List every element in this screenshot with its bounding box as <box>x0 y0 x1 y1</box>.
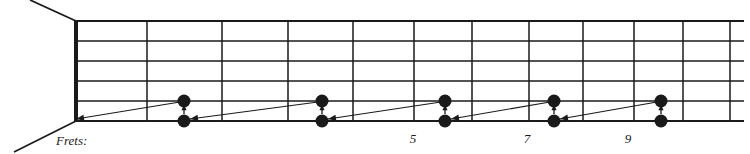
frets-caption-label: Frets: <box>55 133 87 148</box>
slide-arrow-1-shaft <box>190 102 318 119</box>
note-pair-5-low <box>655 115 668 128</box>
slide-arrow-2-head <box>328 115 336 121</box>
note-pair-3-low <box>439 115 452 128</box>
slide-arrow-3-shaft <box>451 102 550 119</box>
fretboard-diagram: 579 Frets: <box>0 0 750 154</box>
note-pair-5-high <box>655 95 668 108</box>
fret-number-labels: 579 <box>410 131 632 146</box>
neck-perspective-edges <box>14 0 76 152</box>
note-pair-1-low <box>178 115 191 128</box>
slide-arrow-2-shaft <box>328 102 441 119</box>
bend-arrows <box>181 105 663 114</box>
fretboard-figure: 579 Frets: <box>0 0 750 154</box>
note-pair-3-high <box>439 95 452 108</box>
note-pair-1-high <box>178 95 191 108</box>
slide-arrow-5 <box>76 102 180 121</box>
slide-arrow-4-head <box>560 115 568 121</box>
fret-number-9: 9 <box>625 131 632 146</box>
note-pair-2-low <box>316 115 329 128</box>
upper-body-edge <box>30 0 76 21</box>
slide-arrow-1 <box>190 102 318 121</box>
fret-number-5: 5 <box>410 131 417 146</box>
slide-arrows <box>76 102 657 121</box>
slide-arrow-4 <box>560 102 657 121</box>
slide-arrow-5-shaft <box>76 102 180 119</box>
fret-number-7: 7 <box>524 131 531 146</box>
fret-lines <box>147 21 730 121</box>
note-pair-2-high <box>316 95 329 108</box>
slide-arrow-4-shaft <box>560 102 657 119</box>
slide-arrow-3 <box>451 102 550 121</box>
slide-arrow-3-head <box>451 115 459 121</box>
note-pair-4-low <box>548 115 561 128</box>
note-pair-4-high <box>548 95 561 108</box>
slide-arrow-2 <box>328 102 441 121</box>
string-lines <box>76 21 744 121</box>
